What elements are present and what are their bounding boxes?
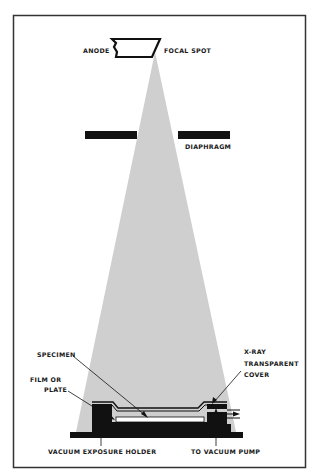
label-cover-line1: X-RAY xyxy=(244,348,266,355)
xray-setup-diagram: ANODE FOCAL SPOT DIAPHRAGM SPECIMEN FILM… xyxy=(0,0,311,475)
label-film-line1: FILM OR xyxy=(30,376,61,383)
diaphragm-right xyxy=(178,131,230,139)
label-cover-line2: TRANSPARENT xyxy=(244,360,299,367)
anode-shape xyxy=(112,39,160,57)
label-cover-line3: COVER xyxy=(244,371,269,378)
xray-beam xyxy=(76,52,236,432)
label-to-vacuum-pump: TO VACUUM PUMP xyxy=(191,448,260,455)
vacuum-exposure-holder xyxy=(70,402,243,438)
label-diaphragm: DIAPHRAGM xyxy=(185,143,231,150)
film-plate xyxy=(116,417,204,422)
diaphragm-left xyxy=(85,131,137,139)
label-focal-spot: FOCAL SPOT xyxy=(164,47,212,54)
label-film-line2: PLATE xyxy=(44,386,67,393)
label-specimen: SPECIMEN xyxy=(37,351,76,358)
label-vacuum-exposure-holder: VACUUM EXPOSURE HOLDER xyxy=(48,448,156,455)
label-anode: ANODE xyxy=(83,47,110,54)
